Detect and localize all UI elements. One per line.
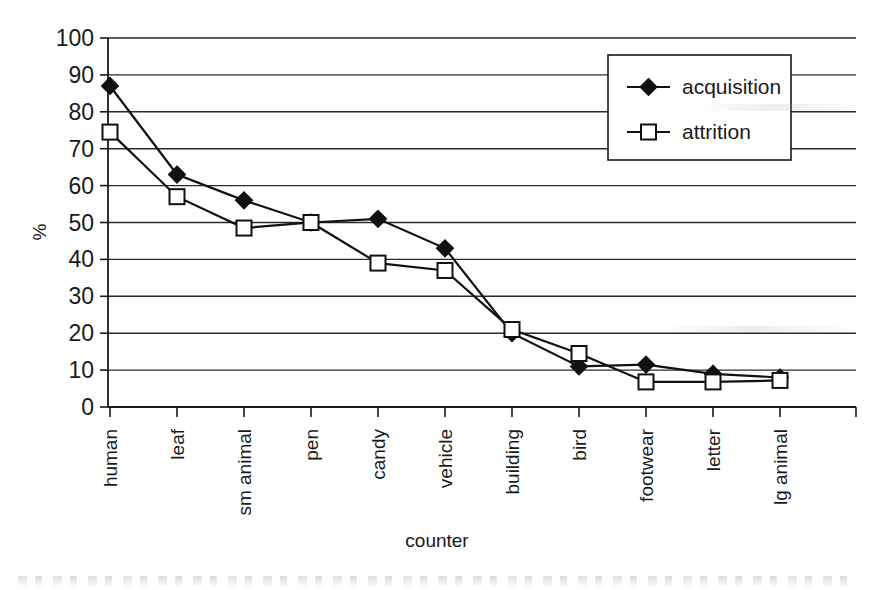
- data-point-marker-square[interactable]: [572, 346, 587, 361]
- legend-label-acquisition: acquisition: [682, 75, 781, 98]
- open-square-icon: [641, 125, 656, 140]
- data-point-marker-square[interactable]: [170, 189, 185, 204]
- x-axis-title: counter: [405, 530, 469, 551]
- x-category-label: candy: [368, 429, 389, 480]
- y-tick-label: 50: [68, 210, 94, 236]
- y-tick-label: 20: [68, 320, 94, 346]
- y-tick-label: 60: [68, 173, 94, 199]
- x-category-label: pen: [301, 429, 322, 461]
- data-point-marker-square[interactable]: [438, 263, 453, 278]
- y-tick-label: 70: [68, 136, 94, 162]
- data-point-marker-square[interactable]: [773, 373, 788, 388]
- y-tick-label: 90: [68, 62, 94, 88]
- data-point-marker-square[interactable]: [304, 215, 319, 230]
- y-tick-label: 30: [68, 283, 94, 309]
- y-tick-label: 0: [81, 394, 94, 420]
- y-tick-label: 100: [56, 25, 94, 51]
- y-tick-label: 40: [68, 246, 94, 272]
- x-category-label: sm animal: [234, 429, 255, 516]
- data-point-marker-square[interactable]: [237, 221, 252, 236]
- x-category-label: building: [502, 429, 523, 495]
- data-point-marker-square[interactable]: [371, 256, 386, 271]
- data-point-marker-square[interactable]: [103, 125, 118, 140]
- x-category-label: bird: [569, 429, 590, 461]
- chart-container: 0102030405060708090100 humanleafsm anima…: [0, 0, 875, 590]
- y-tick-label: 80: [68, 99, 94, 125]
- y-axis-title: %: [29, 223, 50, 240]
- data-point-marker-square[interactable]: [505, 322, 520, 337]
- x-category-label: lg animal: [770, 429, 791, 505]
- x-category-label: human: [100, 429, 121, 487]
- legend-label-attrition: attrition: [682, 120, 751, 143]
- data-point-marker-square[interactable]: [639, 374, 654, 389]
- x-category-label: vehicle: [435, 429, 456, 488]
- x-category-label: footwear: [636, 428, 657, 502]
- x-category-label: leaf: [167, 428, 188, 459]
- data-point-marker-square[interactable]: [706, 374, 721, 389]
- y-tick-label: 10: [68, 357, 94, 383]
- line-chart: 0102030405060708090100 humanleafsm anima…: [0, 0, 875, 590]
- x-category-label: letter: [703, 428, 724, 471]
- legend-box: [608, 55, 791, 160]
- chart-legend[interactable]: acquisition attrition: [608, 55, 791, 160]
